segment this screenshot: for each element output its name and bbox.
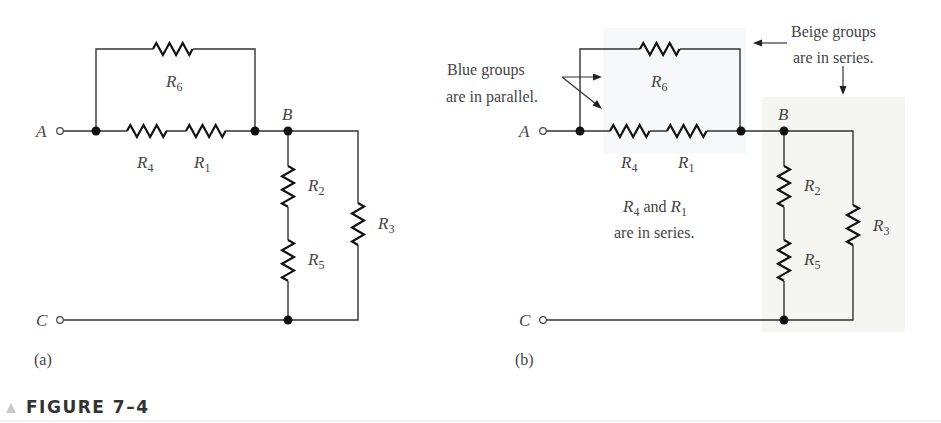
blue-groups-note-line2: are in parallel. [446,88,538,106]
blue-groups-note-line1: Blue groups [447,61,525,79]
series-note-line2: are in series. [614,224,694,241]
junction-node [251,127,260,136]
label-r6: R6 [165,72,182,94]
beige-groups-note-line1: Beige groups [791,23,876,41]
label-r1: R1 [193,153,210,175]
terminal-a [57,128,64,135]
label-r5: R5 [307,250,324,272]
label-r4: R4 [620,153,637,175]
series-note-line1: R4 and R1 [622,197,687,219]
terminal-c [540,317,547,324]
beige-groups-note-line2: are in series. [793,49,873,66]
figure-caption: FIGURE 7–4 [0,397,941,421]
label-r2: R2 [307,176,324,198]
resistor-r4 [127,125,167,137]
label-r3: R3 [377,214,394,236]
junction-node [780,316,789,325]
terminal-a [540,128,547,135]
panel-label-b: (b) [515,351,534,369]
node-b-label: B [778,105,789,124]
wire [62,131,358,320]
triangle-icon [6,403,16,413]
junction-node [576,127,585,136]
panel-label-a: (a) [34,351,52,369]
terminal-c-label: C [519,311,531,330]
figure-7-4: A C B R6 R4 R1 R2 R5 R3 (a) [0,0,941,423]
resistor-r5 [282,240,294,281]
resistor-r3 [352,203,364,245]
terminal-c-label: C [36,311,48,330]
label-r4: R4 [136,153,153,175]
node-b-label: B [282,105,293,124]
beige-groups-arrows [753,40,847,96]
circuit-a: A C B R6 R4 R1 R2 R5 R3 (a) [34,43,394,369]
blue-groups-arrows [562,74,602,110]
junction-node [737,127,746,136]
resistor-r2 [282,166,294,207]
junction-node-b [284,127,293,136]
junction-node [284,316,293,325]
terminal-c [57,317,64,324]
junction-node [92,127,101,136]
label-r1: R1 [677,153,694,175]
circuit-b: A C B R6 R4 R1 R2 R5 R3 Blue groups are … [446,23,905,369]
resistor-r1 [186,125,226,137]
junction-node-b [780,127,789,136]
caption-text: FIGURE 7–4 [26,397,149,417]
terminal-a-label: A [518,122,530,141]
resistor-r6 [153,43,193,55]
terminal-a-label: A [35,122,47,141]
